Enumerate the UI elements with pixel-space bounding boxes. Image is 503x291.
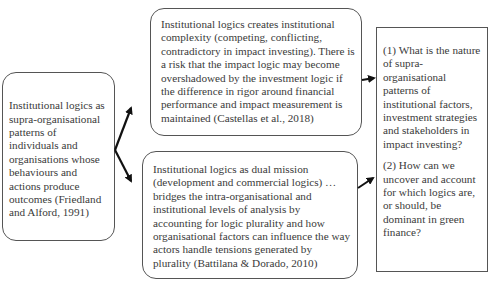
arrow-left-to-top-icon xyxy=(115,108,131,150)
arrow-top-to-right-icon xyxy=(362,78,374,80)
connector-arrows xyxy=(0,0,503,291)
arrow-left-to-bottom-icon xyxy=(115,150,131,181)
arrow-bottom-to-right-icon xyxy=(358,178,373,188)
